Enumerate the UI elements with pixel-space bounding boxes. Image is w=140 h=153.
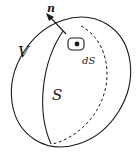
surface-diagram: n V S dS	[0, 0, 140, 153]
outer-surface-boundary	[0, 0, 140, 153]
normal-label: n	[47, 2, 55, 15]
surface-element-label: dS	[82, 55, 95, 66]
volume-label: V	[18, 43, 31, 61]
surface-element-point	[75, 42, 80, 47]
surface-label: S	[52, 86, 62, 104]
